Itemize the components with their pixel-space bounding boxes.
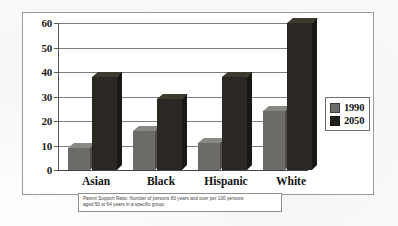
bar-hispanic-1990 bbox=[198, 143, 220, 170]
chart-caption: Parent Support Ratio: Number of persons … bbox=[78, 193, 282, 212]
bar-side bbox=[182, 94, 187, 170]
legend-label-1990: 1990 bbox=[344, 102, 364, 113]
bar-face bbox=[198, 143, 220, 170]
legend-label-2050: 2050 bbox=[344, 115, 364, 126]
bar-group-hispanic: Hispanic bbox=[198, 23, 254, 170]
bar-asian-1990 bbox=[68, 148, 90, 170]
legend-item-2050[interactable]: 2050 bbox=[330, 114, 364, 127]
ytick-label-50: 50 bbox=[41, 42, 52, 54]
bar-face bbox=[92, 77, 117, 170]
bar-asian-2050 bbox=[92, 77, 117, 170]
bar-face bbox=[287, 23, 312, 170]
bar-white-2050 bbox=[287, 23, 312, 170]
chart-figure: 60 50 40 30 20 10 0 bbox=[22, 12, 374, 195]
category-label-hispanic: Hispanic bbox=[192, 175, 260, 187]
ytick-label-0: 0 bbox=[47, 164, 52, 176]
bar-group-asian: Asian bbox=[68, 23, 124, 170]
legend-swatch-icon-2050 bbox=[330, 116, 340, 126]
bar-side bbox=[117, 72, 122, 170]
bar-side bbox=[247, 72, 252, 170]
bar-hispanic-2050 bbox=[222, 77, 247, 170]
bar-black-2050 bbox=[157, 99, 182, 170]
plot-area: 60 50 40 30 20 10 0 bbox=[58, 23, 308, 171]
ytick-label-20: 20 bbox=[41, 115, 52, 127]
caption-line-2: aged 50 to 64 years in a specific group. bbox=[83, 202, 277, 208]
ytick-label-10: 10 bbox=[41, 140, 52, 152]
legend-swatch-icon-1990 bbox=[330, 103, 340, 113]
category-label-white: White bbox=[259, 175, 323, 187]
category-label-asian: Asian bbox=[64, 175, 128, 187]
legend-item-1990[interactable]: 1990 bbox=[330, 101, 364, 114]
chart-legend: 1990 2050 bbox=[325, 97, 370, 131]
bar-face bbox=[263, 111, 285, 170]
bar-side bbox=[312, 18, 317, 170]
ytick-label-30: 30 bbox=[41, 91, 52, 103]
bar-face bbox=[157, 99, 182, 170]
ytick-label-40: 40 bbox=[41, 66, 52, 78]
bar-white-1990 bbox=[263, 111, 285, 170]
bar-group-white: White bbox=[263, 23, 319, 170]
bar-black-1990 bbox=[133, 131, 155, 170]
bar-face bbox=[222, 77, 247, 170]
category-label-black: Black bbox=[129, 175, 193, 187]
ytick-label-60: 60 bbox=[41, 17, 52, 29]
x-axis-line bbox=[58, 170, 308, 171]
bar-group-black: Black bbox=[133, 23, 189, 170]
bar-face bbox=[133, 131, 155, 170]
y-axis-line bbox=[58, 23, 59, 171]
bar-face bbox=[68, 148, 90, 170]
